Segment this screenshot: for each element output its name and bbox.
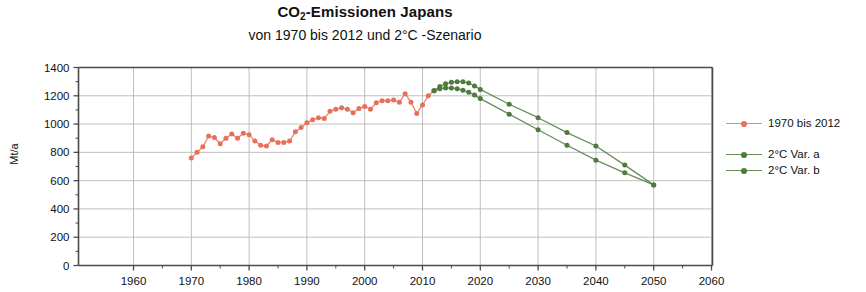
- svg-text:600: 600: [50, 175, 69, 187]
- legend-swatch-icon: [726, 149, 762, 161]
- svg-text:2060: 2060: [699, 275, 725, 287]
- svg-text:1990: 1990: [294, 275, 320, 287]
- svg-text:1970: 1970: [179, 275, 205, 287]
- svg-text:0: 0: [63, 260, 69, 272]
- gridlines: [79, 68, 713, 266]
- svg-text:2010: 2010: [410, 275, 436, 287]
- svg-text:800: 800: [50, 146, 69, 158]
- svg-text:1960: 1960: [121, 275, 147, 287]
- chart-legend: 1970 bis 20122°C Var. a2°C Var. b: [726, 116, 862, 179]
- svg-text:400: 400: [50, 203, 69, 215]
- legend-item[interactable]: 2°C Var. a: [726, 147, 862, 162]
- legend-item-label: 1970 bis 2012: [768, 117, 840, 130]
- legend-item[interactable]: 1970 bis 2012: [726, 116, 862, 131]
- legend-swatch-icon: [726, 165, 762, 177]
- chart-figure: CO2-Emissionen Japans von 1970 bis 2012 …: [0, 0, 866, 292]
- svg-text:1200: 1200: [44, 90, 70, 102]
- plot-frame: [79, 68, 713, 266]
- legend-item-label: 2°C Var. b: [768, 164, 820, 177]
- legend-item-label: 2°C Var. a: [768, 148, 820, 161]
- svg-text:1000: 1000: [44, 118, 70, 130]
- svg-text:2030: 2030: [525, 275, 551, 287]
- legend-swatch-icon: [726, 118, 762, 130]
- svg-text:2040: 2040: [583, 275, 609, 287]
- axis-tick-labels: 0200400600800100012001400196019701980199…: [44, 62, 724, 287]
- svg-text:2020: 2020: [468, 275, 494, 287]
- svg-text:200: 200: [50, 231, 69, 243]
- svg-text:2050: 2050: [641, 275, 667, 287]
- svg-text:1980: 1980: [236, 275, 262, 287]
- svg-text:2000: 2000: [352, 275, 378, 287]
- legend-item[interactable]: 2°C Var. b: [726, 163, 862, 178]
- svg-text:1400: 1400: [44, 62, 70, 74]
